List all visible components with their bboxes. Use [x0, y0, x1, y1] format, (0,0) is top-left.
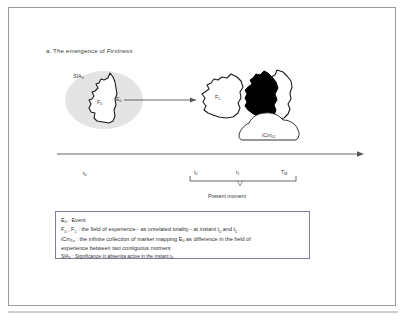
label-f1: F1	[215, 95, 220, 101]
label-sia0-sub: 0	[82, 76, 84, 80]
timeline-arrow-head	[357, 151, 364, 156]
label-icm-base: iCm	[262, 132, 272, 138]
label-e0-sub: 0	[120, 99, 122, 103]
legend-line: iCm1x : the infinite collection of marke…	[61, 235, 304, 244]
legend-line: experience between two contiguous moment	[61, 244, 304, 252]
present-moment-label: Present moment	[208, 193, 246, 199]
label-sia0-base: SIA	[73, 73, 82, 79]
event-solid-shape	[245, 71, 278, 118]
label-icm-sub: 01	[272, 135, 276, 139]
timeline-tick-label-0-sub: 0	[196, 172, 198, 176]
legend-line: F0 ; F1 : the field of experience - as u…	[61, 225, 304, 234]
legend-box: E0 : Event F0 ; F1 : the field of experi…	[55, 211, 310, 259]
field-f1-shape	[202, 74, 243, 118]
timeline-label-t0-left: t0	[83, 171, 87, 177]
legend-line: E0 : Event	[61, 216, 304, 225]
diagram-canvas	[0, 0, 407, 322]
transition-arrow-head	[190, 98, 196, 103]
timeline-tick-label-1-sub: 1	[238, 172, 240, 176]
label-f1-sub: 1	[218, 97, 220, 101]
timeline-tick-label-2-sub: M	[284, 172, 287, 176]
label-sia0: SIA0	[73, 74, 84, 80]
label-f0: F0	[97, 100, 102, 106]
timeline-tick-label-2: TM	[281, 170, 287, 176]
timeline-tick-label-0: t0	[194, 170, 198, 176]
label-e0: E0	[116, 97, 122, 103]
figure-root: a. The emergence of Firstness SIA0 F0	[0, 0, 407, 322]
timeline-tick-label-1: t1	[236, 170, 240, 176]
timeline-label-t0-left-sub: 0	[85, 173, 87, 177]
label-f0-sub: 0	[100, 102, 102, 106]
label-icm: iCm01	[262, 133, 276, 139]
legend-line: SIA0 : Significance in absentia active i…	[61, 253, 304, 261]
